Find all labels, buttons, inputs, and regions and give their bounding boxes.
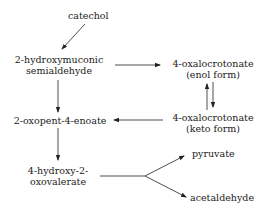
node-label-line-1: 4-hydroxy-2-: [16, 165, 100, 176]
node-label-line-2: oxovalerate: [16, 176, 100, 187]
node-label-line-1: 2-hydroxymuconic: [14, 54, 104, 65]
arrow-split-to-pyruvate: [145, 156, 184, 176]
node-acetaldehyde: acetaldehyde: [190, 192, 254, 203]
node-4-oxalocrotonate-enol: 4-oxalocrotonate (enol form): [168, 58, 258, 80]
node-4-oxalocrotonate-keto: 4-oxalocrotonate (keto form): [168, 112, 258, 134]
node-catechol: catechol: [68, 10, 109, 21]
node-2-oxopent-4-enoate: 2-oxopent-4-enoate: [12, 115, 108, 126]
node-label-line-2: semialdehyde: [14, 65, 104, 76]
node-label: catechol: [68, 10, 109, 21]
node-4-hydroxy-2-oxovalerate: 4-hydroxy-2- oxovalerate: [16, 165, 100, 187]
arrow-split-to-acetaldehyde: [145, 176, 186, 197]
node-label: 2-oxopent-4-enoate: [12, 115, 108, 126]
node-2-hydroxymuconic-semialdehyde: 2-hydroxymuconic semialdehyde: [14, 54, 104, 76]
node-label-line-1: 4-oxalocrotonate: [168, 58, 258, 69]
node-pyruvate: pyruvate: [192, 148, 235, 159]
node-label-line-2: (enol form): [168, 69, 258, 80]
node-label-line-2: (keto form): [168, 123, 258, 134]
node-label-line-1: 4-oxalocrotonate: [168, 112, 258, 123]
node-label: pyruvate: [192, 148, 235, 159]
arrow-catechol-to-hms: [62, 24, 85, 49]
node-label: acetaldehyde: [190, 192, 254, 203]
